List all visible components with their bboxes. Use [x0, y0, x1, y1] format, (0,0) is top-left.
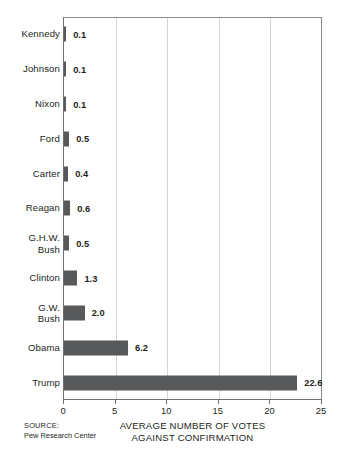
- x-tick: [166, 400, 167, 404]
- category-label: Clinton: [0, 272, 60, 284]
- x-tick-label: 25: [316, 405, 326, 416]
- bar-row: Obama6.2: [0, 330, 343, 365]
- bar-track: 1.3: [64, 271, 322, 286]
- bar-row: G.W. Bush2.0: [0, 296, 343, 331]
- bar-track: 0.4: [64, 166, 322, 181]
- x-tick-label: 5: [112, 405, 117, 416]
- bar-row: Nixon0.1: [0, 87, 343, 122]
- bar-row: Carter0.4: [0, 156, 343, 191]
- bar[interactable]: [64, 27, 66, 42]
- source-label: SOURCE:: [24, 421, 134, 431]
- x-axis: 0510152025: [63, 400, 322, 418]
- bar-value-label: 22.6: [304, 378, 322, 388]
- bar-row: Trump22.6: [0, 365, 343, 400]
- category-label: Kennedy: [0, 29, 60, 41]
- bar[interactable]: [64, 236, 69, 251]
- category-label: Ford: [0, 133, 60, 145]
- bar[interactable]: [64, 201, 70, 216]
- bar-value-label: 0.5: [76, 238, 89, 248]
- bar-track: 22.6: [64, 375, 322, 390]
- category-label: G.W. Bush: [0, 301, 60, 324]
- bar-value-label: 0.1: [73, 99, 86, 109]
- bar[interactable]: [64, 131, 69, 146]
- bar-value-label: 1.3: [84, 273, 97, 283]
- bar[interactable]: [64, 166, 68, 181]
- category-label: Obama: [0, 342, 60, 354]
- bar[interactable]: [64, 340, 128, 355]
- bar-track: 0.1: [64, 62, 322, 77]
- bar-row: Ford0.5: [0, 121, 343, 156]
- category-label: Reagan: [0, 203, 60, 215]
- bar-track: 0.6: [64, 201, 322, 216]
- bar-row: Kennedy0.1: [0, 17, 343, 52]
- bar-track: 0.1: [64, 27, 322, 42]
- bar-row: Johnson0.1: [0, 52, 343, 87]
- bar-value-label: 2.0: [92, 308, 105, 318]
- category-label: Nixon: [0, 98, 60, 110]
- bar-track: 0.1: [64, 97, 322, 112]
- x-tick: [115, 400, 116, 404]
- bar-value-label: 0.5: [76, 134, 89, 144]
- bar-track: 0.5: [64, 131, 322, 146]
- source-note: SOURCE: Pew Research Center: [24, 421, 134, 441]
- bar-value-label: 0.1: [73, 64, 86, 74]
- bar-row-list: Kennedy0.1Johnson0.1Nixon0.1Ford0.5Carte…: [0, 17, 343, 400]
- bar-value-label: 0.4: [75, 169, 88, 179]
- bar-value-label: 0.1: [73, 29, 86, 39]
- bar-value-label: 0.6: [77, 203, 90, 213]
- category-label: Johnson: [0, 63, 60, 75]
- x-tick: [63, 400, 64, 404]
- x-tick: [321, 400, 322, 404]
- bar-track: 0.5: [64, 236, 322, 251]
- bar[interactable]: [64, 375, 297, 390]
- x-tick-label: 15: [213, 405, 223, 416]
- category-label: Trump: [0, 377, 60, 389]
- bar-row: G.H.W. Bush0.5: [0, 226, 343, 261]
- bar[interactable]: [64, 305, 85, 320]
- bar-row: Clinton1.3: [0, 261, 343, 296]
- bar[interactable]: [64, 97, 66, 112]
- category-label: Carter: [0, 168, 60, 180]
- bar-chart: Kennedy0.1Johnson0.1Nixon0.1Ford0.5Carte…: [0, 0, 343, 453]
- bar-track: 6.2: [64, 340, 322, 355]
- x-tick: [218, 400, 219, 404]
- category-label: G.H.W. Bush: [0, 232, 60, 255]
- x-tick-label: 10: [161, 405, 171, 416]
- bar-track: 2.0: [64, 305, 322, 320]
- x-tick: [269, 400, 270, 404]
- x-tick-label: 20: [264, 405, 274, 416]
- bar-value-label: 6.2: [135, 343, 148, 353]
- x-tick-label: 0: [60, 405, 65, 416]
- bar[interactable]: [64, 271, 77, 286]
- source-name: Pew Research Center: [24, 431, 134, 441]
- bar-row: Reagan0.6: [0, 191, 343, 226]
- bar[interactable]: [64, 62, 66, 77]
